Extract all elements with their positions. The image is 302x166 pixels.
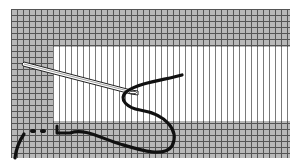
needle-icon (22, 62, 138, 95)
needlework-illustration (0, 0, 302, 166)
thread-icon (15, 75, 182, 158)
needle-thread-icon (0, 0, 302, 166)
